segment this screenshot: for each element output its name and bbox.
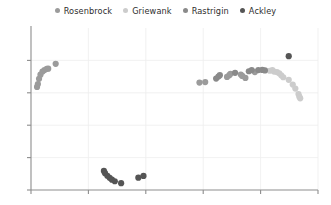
circle-marker-icon [183, 8, 188, 13]
data-point-rosenbrock [242, 75, 248, 81]
gridlines [31, 28, 318, 190]
axis-ticks [27, 60, 318, 194]
chart-legend: RosenbrockGriewankRastriginAckley [0, 0, 331, 22]
data-point-griewank [280, 74, 286, 80]
data-point-griewank [292, 85, 298, 91]
data-point-rastrigin [249, 67, 255, 73]
series-griewank [267, 67, 304, 101]
series-ackley [101, 53, 292, 186]
legend-label: Ackley [249, 7, 276, 15]
data-point-ackley [112, 178, 118, 184]
circle-marker-icon [240, 8, 245, 13]
circle-marker-icon [123, 8, 128, 13]
data-point-griewank [297, 95, 303, 101]
legend-label: Griewank [132, 7, 171, 15]
data-points [34, 53, 303, 186]
legend-entry-griewank[interactable]: Griewank [123, 7, 171, 15]
circle-marker-icon [55, 8, 60, 13]
legend-entry-rastrigin[interactable]: Rastrigin [183, 7, 229, 15]
data-point-rosenbrock [53, 61, 59, 67]
legend-entry-ackley[interactable]: Ackley [240, 7, 276, 15]
data-point-rosenbrock [202, 79, 208, 85]
data-point-rosenbrock [35, 81, 41, 87]
data-point-ackley [286, 53, 292, 59]
legend-label: Rastrigin [192, 7, 229, 15]
data-point-rosenbrock [196, 79, 202, 85]
data-point-rastrigin [262, 67, 268, 73]
data-point-rastrigin [232, 70, 238, 76]
data-point-griewank [286, 77, 292, 83]
scatter-plot-figure: RosenbrockGriewankRastriginAckley [0, 0, 331, 205]
plot-canvas [0, 22, 331, 205]
legend-label: Rosenbrock [64, 7, 112, 15]
plot-area [0, 22, 331, 205]
data-point-rosenbrock [45, 66, 51, 72]
data-point-rastrigin [217, 72, 223, 78]
axis-lines [31, 26, 318, 190]
data-point-ackley [140, 173, 146, 179]
legend-entry-rosenbrock[interactable]: Rosenbrock [55, 7, 112, 15]
data-point-ackley [118, 180, 124, 186]
